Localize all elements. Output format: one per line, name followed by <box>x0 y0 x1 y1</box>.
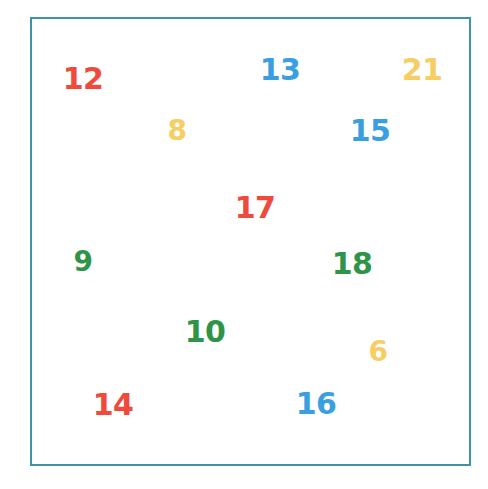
number-token-15[interactable]: 15 <box>350 116 391 146</box>
number-token-9[interactable]: 9 <box>74 248 93 276</box>
number-scatter-canvas: 121321815179181061416 <box>0 0 488 489</box>
number-token-6[interactable]: 6 <box>369 338 388 366</box>
number-token-8[interactable]: 8 <box>168 117 187 145</box>
number-token-13[interactable]: 13 <box>260 55 301 85</box>
number-token-14[interactable]: 14 <box>93 390 134 420</box>
number-token-17[interactable]: 17 <box>235 193 276 223</box>
number-token-18[interactable]: 18 <box>332 249 373 279</box>
number-token-21[interactable]: 21 <box>402 55 443 85</box>
number-token-16[interactable]: 16 <box>296 389 337 419</box>
number-token-10[interactable]: 10 <box>185 317 226 347</box>
number-token-12[interactable]: 12 <box>63 64 104 94</box>
